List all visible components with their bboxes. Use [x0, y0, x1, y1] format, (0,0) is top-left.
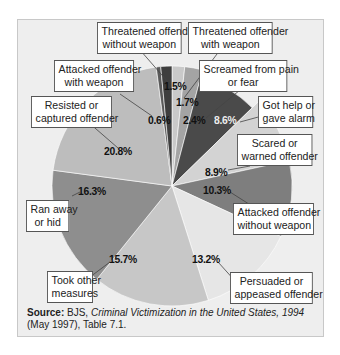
label-line: Persuaded or [235, 275, 309, 288]
label-threatened-with-weapon: Threatened offender with weapon [188, 22, 273, 54]
pct-13-2: 13.2% [192, 253, 220, 265]
source-org: BJS, [64, 307, 91, 318]
label-line: Took other [52, 274, 89, 287]
label-threatened-without-weapon: Threatened offender without weapon [97, 22, 182, 54]
pct-1-7: 1.7% [176, 96, 199, 108]
label-line: gave alarm [263, 112, 309, 125]
label-line: appeased offender [235, 288, 309, 301]
pct-1-5: 1.5% [164, 80, 187, 92]
label-line: Threatened offender [193, 25, 268, 38]
source-label: Source: [27, 307, 64, 318]
label-line: or fear [204, 76, 283, 89]
pct-8-6: 8.6% [214, 114, 237, 126]
label-ran-away: Ran away or hid [26, 200, 69, 232]
pct-2-4: 2.4% [183, 114, 206, 126]
label-line: without weapon [238, 219, 310, 232]
pct-20-8: 20.8% [104, 145, 132, 157]
label-line: measures [52, 287, 89, 300]
label-scared: Scared or warned offender [237, 134, 312, 166]
label-line: with weapon [59, 76, 130, 89]
label-persuaded: Persuaded or appeased offender [230, 272, 313, 304]
label-line: Threatened offender [102, 25, 177, 38]
label-line: Got help or [263, 99, 309, 112]
label-attacked-without-weapon: Attacked offender without weapon [233, 203, 314, 235]
pct-8-9: 8.9% [205, 166, 228, 178]
pct-0-6: 0.6% [148, 114, 171, 126]
label-line: or hid [31, 216, 65, 229]
source-rest: (May 1997), Table 7.1. [27, 319, 126, 330]
label-line: captured offender [36, 112, 108, 125]
pct-15-7: 15.7% [109, 253, 137, 265]
label-line: Ran away [31, 203, 65, 216]
label-resisted: Resisted or captured offender [31, 96, 112, 128]
label-attacked-with-weapon: Attacked offender with weapon [54, 60, 134, 92]
pct-16-3: 16.3% [78, 185, 106, 197]
label-line: without weapon [102, 38, 177, 51]
source-note: Source: BJS, Criminal Victimization in t… [27, 307, 317, 331]
label-line: Screamed from pain [204, 63, 283, 76]
label-line: Resisted or [36, 99, 108, 112]
label-line: Attacked offender [59, 63, 130, 76]
label-line: with weapon [193, 38, 268, 51]
pct-10-3: 10.3% [203, 184, 231, 196]
label-took-other: Took other measures [47, 271, 93, 303]
label-got-help: Got help or gave alarm [258, 96, 313, 128]
label-screamed: Screamed from pain or fear [199, 60, 287, 92]
label-line: Attacked offender [238, 206, 310, 219]
label-line: warned offender [242, 150, 308, 163]
source-title: Criminal Victimization in the United Sta… [91, 307, 304, 318]
label-line: Scared or [242, 137, 308, 150]
